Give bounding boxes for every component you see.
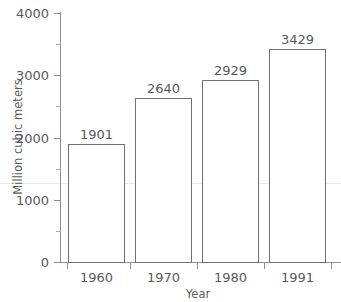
bar-value-1980: 2929 <box>214 63 247 78</box>
x-category-label-1970: 1970 <box>147 270 180 285</box>
y-tick-label-4000: 4000 <box>16 6 49 21</box>
bar-series <box>69 49 326 262</box>
x-category-label-1960: 1960 <box>80 270 113 285</box>
bar-1980[interactable] <box>203 80 259 262</box>
chart-canvas: 4000 3000 2000 1000 0 Million cubic mete… <box>0 0 341 302</box>
x-category-label-1980: 1980 <box>214 270 247 285</box>
y-tick-label-0: 0 <box>41 255 49 270</box>
bar-chart: 4000 3000 2000 1000 0 Million cubic mete… <box>0 0 341 302</box>
x-axis-title: Year <box>185 287 211 301</box>
bar-value-1960: 1901 <box>80 127 113 142</box>
bar-1970[interactable] <box>136 98 192 262</box>
y-axis-title: Million cubic meters <box>11 79 25 194</box>
bar-1991[interactable] <box>270 49 326 262</box>
x-axis-ticks <box>68 263 332 270</box>
bar-value-1970: 2640 <box>147 81 180 96</box>
bar-value-1991: 3429 <box>281 32 314 47</box>
bar-1960[interactable] <box>69 144 125 262</box>
y-axis-major-ticks <box>54 14 61 263</box>
x-category-label-1991: 1991 <box>281 270 314 285</box>
